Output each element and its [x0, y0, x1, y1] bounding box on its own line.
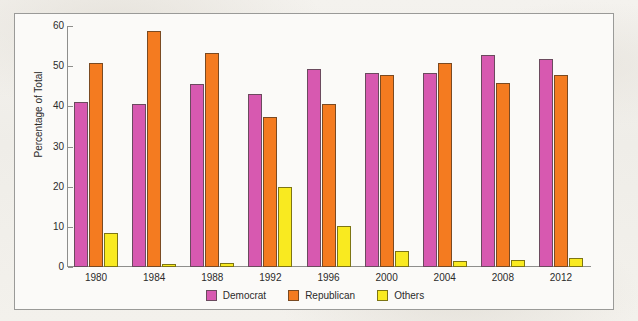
bar-republican-1988 — [205, 53, 219, 267]
bar-others-2004 — [453, 261, 467, 267]
figure-frame: 0102030405060 Percentage of Total 198019… — [14, 13, 614, 310]
bar-republican-2012 — [554, 75, 568, 267]
bar-others-2012 — [569, 258, 583, 267]
y-axis-label: Percentage of Total — [33, 45, 44, 185]
x-tick-label-2008: 2008 — [473, 272, 533, 283]
bar-democrat-1980 — [74, 102, 88, 267]
bar-democrat-1984 — [132, 104, 146, 267]
bar-others-1988 — [220, 263, 234, 267]
bar-democrat-2004 — [423, 73, 437, 267]
bar-others-1992 — [278, 187, 292, 267]
bar-others-1980 — [104, 233, 118, 267]
bar-others-1984 — [162, 264, 176, 267]
bar-democrat-1988 — [190, 84, 204, 267]
legend-label-democrat: Democrat — [223, 290, 266, 301]
chart-legend: DemocratRepublicanOthers — [15, 290, 615, 301]
x-tick-label-1996: 1996 — [299, 272, 359, 283]
y-tick-label: 10 — [18, 221, 64, 232]
legend-entry-republican[interactable]: Republican — [288, 290, 355, 301]
x-tick-label-2004: 2004 — [415, 272, 475, 283]
bar-others-2008 — [511, 260, 525, 267]
bar-democrat-2008 — [481, 55, 495, 267]
legend-swatch-others — [377, 290, 388, 301]
x-tick-label-2000: 2000 — [357, 272, 417, 283]
grouped-bar-chart: 0102030405060 Percentage of Total 198019… — [15, 14, 615, 311]
legend-swatch-republican — [288, 290, 299, 301]
x-tick-label-1988: 1988 — [182, 272, 242, 283]
bar-republican-1984 — [147, 31, 161, 267]
legend-entry-democrat[interactable]: Democrat — [206, 290, 266, 301]
y-tick-label: 0 — [18, 261, 64, 272]
bars-layer — [67, 26, 590, 267]
bar-republican-1996 — [322, 104, 336, 267]
x-tick-label-1984: 1984 — [124, 272, 184, 283]
bar-democrat-1992 — [248, 94, 262, 267]
bar-democrat-2012 — [539, 59, 553, 267]
x-tick-label-1980: 1980 — [66, 272, 126, 283]
y-tick-label: 60 — [18, 20, 64, 31]
legend-swatch-democrat — [206, 290, 217, 301]
x-tick-label-1992: 1992 — [240, 272, 300, 283]
bar-republican-1992 — [263, 117, 277, 267]
bar-others-2000 — [395, 251, 409, 267]
bar-republican-1980 — [89, 63, 103, 267]
bar-others-1996 — [337, 226, 351, 267]
bar-democrat-1996 — [307, 69, 321, 267]
y-tick-mark — [68, 267, 73, 268]
bar-democrat-2000 — [365, 73, 379, 267]
bar-republican-2000 — [380, 75, 394, 267]
legend-label-republican: Republican — [305, 290, 355, 301]
legend-label-others: Others — [394, 290, 424, 301]
legend-entry-others[interactable]: Others — [377, 290, 424, 301]
bar-republican-2004 — [438, 63, 452, 267]
x-tick-label-2012: 2012 — [531, 272, 591, 283]
bar-republican-2008 — [496, 83, 510, 267]
